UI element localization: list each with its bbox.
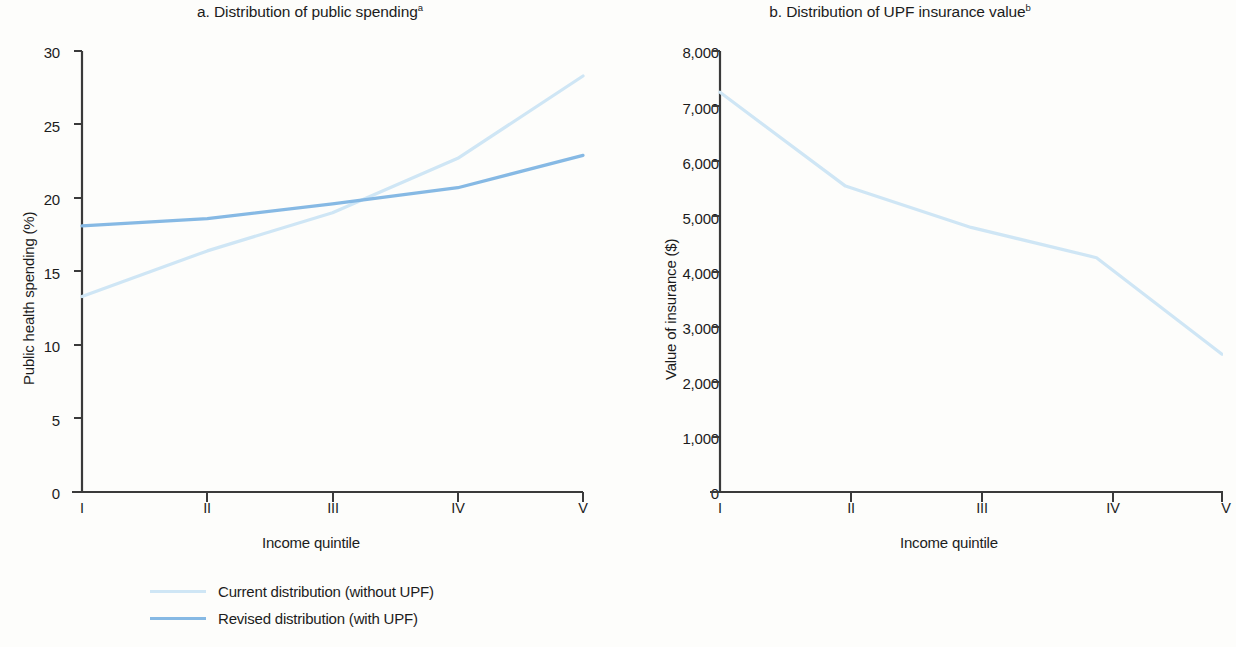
panel-b-y-tick-marks — [710, 51, 720, 492]
panel-b-line-insurance-value — [720, 92, 1222, 354]
